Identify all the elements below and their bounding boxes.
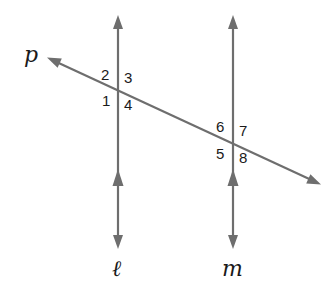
line-l-parallel-marker xyxy=(113,169,124,186)
parallel-lines-diagram: p ℓ m 2 3 1 4 6 7 5 8 xyxy=(0,0,328,296)
angle-label-2: 2 xyxy=(101,66,109,83)
line-p xyxy=(47,58,321,185)
line-m-label: m xyxy=(222,256,243,281)
line-l-bottom-arrowhead xyxy=(113,235,123,249)
line-m xyxy=(228,15,239,249)
angle-label-8: 8 xyxy=(239,149,247,166)
angle-label-4: 4 xyxy=(124,96,132,113)
angle-label-7: 7 xyxy=(239,122,247,139)
line-p-right-arrowhead xyxy=(306,174,321,184)
line-m-bottom-arrowhead xyxy=(228,235,238,249)
line-l-top-arrowhead xyxy=(113,15,123,29)
angle-label-6: 6 xyxy=(216,118,224,135)
line-m-parallel-marker xyxy=(228,169,239,186)
line-l xyxy=(113,15,124,249)
line-p-left-arrowhead xyxy=(47,58,62,68)
line-l-label: ℓ xyxy=(112,256,122,281)
angle-label-5: 5 xyxy=(216,145,224,162)
angle-label-1: 1 xyxy=(102,92,110,109)
line-m-top-arrowhead xyxy=(228,15,238,29)
angle-label-3: 3 xyxy=(124,69,132,86)
line-p-label: p xyxy=(24,42,38,67)
